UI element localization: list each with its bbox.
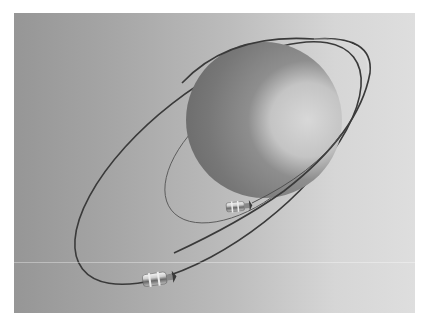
scene-canvas bbox=[14, 13, 415, 313]
planet-sphere bbox=[186, 42, 342, 198]
render-frame bbox=[14, 13, 415, 313]
satellite-large bbox=[142, 269, 178, 288]
scanline-artifact bbox=[14, 262, 415, 263]
